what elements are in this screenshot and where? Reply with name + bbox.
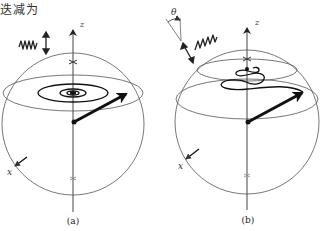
panel-a: z x (a) xyxy=(2,20,144,226)
x-axis xyxy=(15,157,27,166)
polarization-double-arrow-icon xyxy=(181,43,194,63)
spin-vector-origin xyxy=(72,120,77,125)
x-axis-label: x xyxy=(7,167,12,177)
z-axis-label: z xyxy=(254,18,260,27)
bloch-sphere-figure: z x (a) xyxy=(0,0,325,231)
theta-angle-wedge xyxy=(166,18,181,41)
spin-vector-origin xyxy=(246,120,251,125)
polarization-double-arrow-icon xyxy=(43,32,49,54)
x-axis-label: x xyxy=(178,161,183,171)
x-axis xyxy=(186,149,199,159)
theta-label: θ xyxy=(171,7,177,17)
z-axis-label: z xyxy=(79,20,85,29)
panel-a-caption: (a) xyxy=(67,216,79,226)
photon-wave-icon xyxy=(19,41,37,49)
panel-b-caption: (b) xyxy=(242,215,255,225)
panel-b: z x θ (b) xyxy=(166,7,319,225)
photon-wave-icon xyxy=(195,35,217,50)
